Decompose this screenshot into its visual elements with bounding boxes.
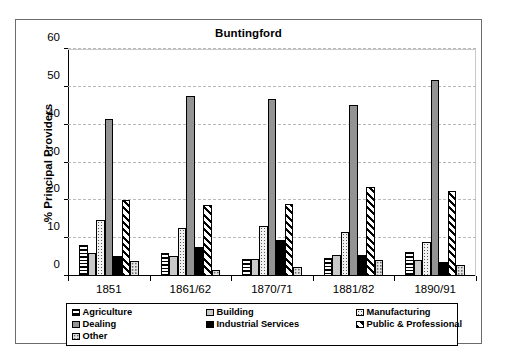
bars-container xyxy=(313,49,395,276)
bar-agriculture[interactable] xyxy=(79,245,88,276)
y-tick-label-40: 40 xyxy=(47,107,60,119)
legend-item-other[interactable]: Other xyxy=(72,331,206,342)
bar-agriculture[interactable] xyxy=(405,252,414,276)
y-tick-label-0: 0 xyxy=(54,258,60,270)
bar-agriculture[interactable] xyxy=(161,253,170,276)
bar-dealing[interactable] xyxy=(349,105,358,276)
bar-dealing[interactable] xyxy=(431,80,440,276)
legend-swatch-icon xyxy=(72,321,80,329)
legend-item-building[interactable]: Building xyxy=(206,307,356,318)
bar-group-1851: 1851 xyxy=(68,49,150,276)
chart-title: Buntingford xyxy=(16,27,481,39)
y-axis-title: % Principal Providers xyxy=(39,49,57,276)
bar-other[interactable] xyxy=(293,267,302,276)
legend-item-public-professional[interactable]: Public & Professional xyxy=(356,319,462,330)
x-tick-label-1861-62: 1861/62 xyxy=(150,283,232,295)
x-tick-label-1851: 1851 xyxy=(68,283,150,295)
legend-label: Manufacturing xyxy=(367,307,431,318)
y-tick-label-30: 30 xyxy=(47,145,60,157)
bar-industrial-services[interactable] xyxy=(276,240,285,276)
bar-building[interactable] xyxy=(332,255,341,276)
bars-container xyxy=(68,49,150,276)
bar-manufacturing[interactable] xyxy=(178,228,187,276)
bar-public-professional[interactable] xyxy=(448,191,457,276)
legend-label: Agriculture xyxy=(83,307,133,318)
legend-item-industrial-services[interactable]: Industrial Services xyxy=(206,319,356,330)
x-tick-label-1890-91: 1890/91 xyxy=(394,283,476,295)
legend-swatch-icon xyxy=(206,321,214,329)
legend-grid: AgricultureBuildingManufacturingDealingI… xyxy=(72,307,453,342)
bars-container xyxy=(231,49,313,276)
bar-group-1881-82: 1881/82 xyxy=(313,49,395,276)
y-tick-label-60: 60 xyxy=(47,31,60,43)
bar-public-professional[interactable] xyxy=(366,187,375,276)
bar-building[interactable] xyxy=(169,256,178,276)
legend-label: Dealing xyxy=(83,319,117,330)
chart-frame: Buntingford % Principal Providers 010203… xyxy=(15,19,482,344)
bar-other[interactable] xyxy=(456,265,465,276)
legend-swatch-icon xyxy=(206,309,214,317)
bar-industrial-services[interactable] xyxy=(358,255,367,276)
y-tick-label-10: 10 xyxy=(47,220,60,232)
legend-label: Public & Professional xyxy=(367,319,463,330)
x-tick-mark xyxy=(394,276,395,281)
bar-group-1870-71: 1870/71 xyxy=(231,49,313,276)
bar-manufacturing[interactable] xyxy=(259,226,268,276)
bar-dealing[interactable] xyxy=(105,119,114,276)
x-tick-mark xyxy=(313,276,314,281)
x-tick-mark-origin xyxy=(68,276,69,281)
legend-item-manufacturing[interactable]: Manufacturing xyxy=(356,307,462,318)
bar-industrial-services[interactable] xyxy=(439,262,448,276)
bar-building[interactable] xyxy=(251,259,260,276)
x-tick-label-1870-71: 1870/71 xyxy=(231,283,313,295)
legend-swatch-icon xyxy=(356,321,364,329)
x-tick-mark xyxy=(476,276,477,281)
bar-agriculture[interactable] xyxy=(242,259,251,276)
chart-legend: AgricultureBuildingManufacturingDealingI… xyxy=(66,303,458,346)
legend-swatch-icon xyxy=(356,309,364,317)
legend-swatch-icon xyxy=(72,333,80,341)
bar-other[interactable] xyxy=(130,261,139,277)
bar-building[interactable] xyxy=(414,260,423,276)
bars-container xyxy=(394,49,476,276)
x-tick-mark xyxy=(231,276,232,281)
y-tick-label-50: 50 xyxy=(47,69,60,81)
x-tick-mark xyxy=(150,276,151,281)
bar-manufacturing[interactable] xyxy=(341,232,350,276)
bar-dealing[interactable] xyxy=(268,99,277,276)
bar-manufacturing[interactable] xyxy=(422,242,431,276)
bars-container xyxy=(150,49,232,276)
bar-public-professional[interactable] xyxy=(122,200,131,276)
y-axis-title-text: % Principal Providers xyxy=(42,103,54,221)
bar-group-1890-91: 1890/91 xyxy=(394,49,476,276)
chart-screenshot: Buntingford % Principal Providers 010203… xyxy=(0,0,505,362)
legend-swatch-icon xyxy=(72,309,80,317)
bar-dealing[interactable] xyxy=(186,96,195,276)
bar-manufacturing[interactable] xyxy=(96,220,105,276)
legend-label: Industrial Services xyxy=(217,319,300,330)
bar-industrial-services[interactable] xyxy=(195,247,204,276)
y-tick-label-20: 20 xyxy=(47,182,60,194)
bar-groups: 18511861/621870/711881/821890/91 xyxy=(68,49,476,276)
bar-other[interactable] xyxy=(375,260,384,276)
legend-label: Other xyxy=(83,331,108,342)
legend-item-dealing[interactable]: Dealing xyxy=(72,319,206,330)
bar-group-1861-62: 1861/62 xyxy=(150,49,232,276)
bar-public-professional[interactable] xyxy=(203,205,212,276)
bar-agriculture[interactable] xyxy=(324,258,333,276)
plot-area-wrapper: 0102030405060 18511861/621870/711881/821… xyxy=(68,49,476,276)
bar-other[interactable] xyxy=(212,270,221,276)
bar-industrial-services[interactable] xyxy=(113,256,122,276)
legend-item-agriculture[interactable]: Agriculture xyxy=(72,307,206,318)
bar-building[interactable] xyxy=(88,253,97,276)
legend-label: Building xyxy=(217,307,254,318)
x-tick-label-1881-82: 1881/82 xyxy=(313,283,395,295)
bar-public-professional[interactable] xyxy=(285,204,294,276)
